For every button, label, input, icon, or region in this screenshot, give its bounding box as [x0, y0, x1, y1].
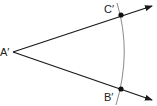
ray-upper — [13, 6, 152, 52]
angle-diagram: A′ C′ B′ — [0, 0, 157, 106]
label-c-prime: C′ — [104, 3, 114, 15]
label-b-prime: B′ — [104, 91, 113, 103]
ray-lower — [13, 52, 152, 100]
point-c-prime — [118, 12, 123, 17]
point-b-prime — [118, 86, 123, 91]
label-vertex-a-prime: A′ — [0, 46, 9, 58]
